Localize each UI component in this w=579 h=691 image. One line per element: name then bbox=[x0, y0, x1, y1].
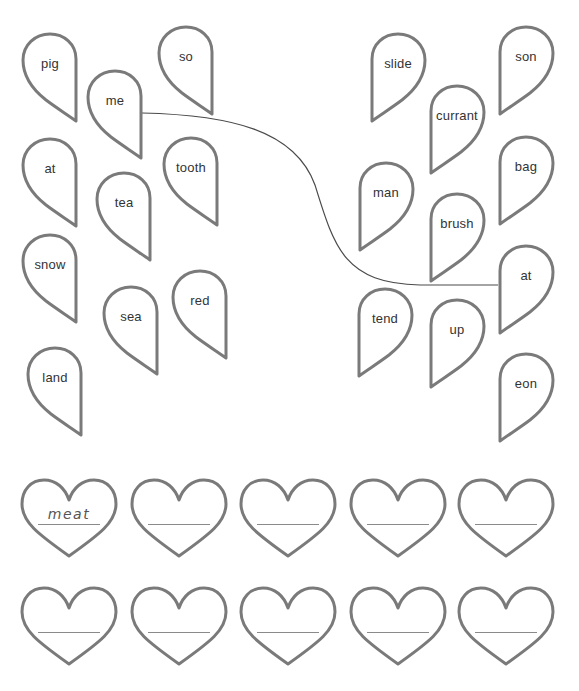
answer-text[interactable] bbox=[365, 614, 431, 632]
answer-text[interactable] bbox=[365, 506, 431, 524]
word-label: slide bbox=[370, 56, 426, 71]
answer-text[interactable] bbox=[255, 614, 321, 632]
word-label: currant bbox=[429, 108, 485, 123]
right-half-heart[interactable]: slide bbox=[370, 33, 426, 121]
word-label: pig bbox=[22, 56, 78, 71]
right-half-heart[interactable]: bag bbox=[498, 136, 554, 224]
answer-blank-line bbox=[148, 632, 210, 633]
word-label: up bbox=[429, 322, 485, 337]
word-label: at bbox=[498, 268, 554, 283]
left-half-heart-shape-icon bbox=[163, 137, 219, 225]
left-half-heart[interactable]: red bbox=[172, 270, 228, 358]
right-half-heart-shape-icon bbox=[429, 299, 485, 387]
left-half-heart-shape-icon bbox=[22, 33, 78, 121]
answer-text[interactable] bbox=[473, 506, 539, 524]
word-label: man bbox=[358, 185, 414, 200]
answer-heart[interactable] bbox=[130, 478, 228, 558]
right-half-heart[interactable]: man bbox=[358, 162, 414, 250]
right-half-heart-shape-icon bbox=[498, 353, 554, 441]
answer-heart[interactable] bbox=[349, 478, 447, 558]
word-label: sea bbox=[103, 309, 159, 324]
answer-blank-line bbox=[257, 632, 319, 633]
answer-heart[interactable] bbox=[130, 586, 228, 666]
right-half-heart[interactable]: eon bbox=[498, 353, 554, 441]
right-half-heart[interactable]: up bbox=[429, 299, 485, 387]
answer-blank-line bbox=[148, 524, 210, 525]
right-half-heart-shape-icon bbox=[498, 245, 554, 333]
word-label: snow bbox=[22, 257, 78, 272]
answer-blank-line bbox=[367, 524, 429, 525]
answer-heart[interactable] bbox=[349, 586, 447, 666]
answer-text[interactable]: meat bbox=[36, 506, 102, 524]
left-half-heart[interactable]: tooth bbox=[163, 137, 219, 225]
answer-heart[interactable]: meat bbox=[20, 478, 118, 558]
left-half-heart[interactable]: land bbox=[27, 347, 83, 435]
right-half-heart-shape-icon bbox=[358, 162, 414, 250]
answer-text[interactable] bbox=[36, 614, 102, 632]
right-half-heart-shape-icon bbox=[498, 26, 554, 114]
left-half-heart-shape-icon bbox=[27, 347, 83, 435]
word-label: bag bbox=[498, 159, 554, 174]
answer-text[interactable] bbox=[146, 506, 212, 524]
left-half-heart-shape-icon bbox=[22, 234, 78, 322]
answer-blank-line bbox=[475, 632, 537, 633]
left-half-heart-shape-icon bbox=[96, 172, 152, 260]
answer-text[interactable] bbox=[255, 506, 321, 524]
answer-text[interactable] bbox=[473, 614, 539, 632]
answer-heart[interactable] bbox=[457, 586, 555, 666]
right-half-heart-shape-icon bbox=[370, 33, 426, 121]
answer-blank-line bbox=[475, 524, 537, 525]
word-label: tend bbox=[357, 311, 413, 326]
left-half-heart-shape-icon bbox=[172, 270, 228, 358]
left-half-heart[interactable]: so bbox=[158, 26, 214, 114]
word-label: me bbox=[87, 93, 143, 108]
word-label: tea bbox=[96, 195, 152, 210]
left-half-heart[interactable]: pig bbox=[22, 33, 78, 121]
right-half-heart[interactable]: brush bbox=[429, 193, 485, 281]
answer-text[interactable] bbox=[146, 614, 212, 632]
right-half-heart-shape-icon bbox=[429, 193, 485, 281]
right-half-heart[interactable]: currant bbox=[429, 85, 485, 173]
left-half-heart[interactable]: sea bbox=[103, 286, 159, 374]
answer-heart[interactable] bbox=[20, 586, 118, 666]
answer-heart[interactable] bbox=[239, 478, 337, 558]
left-half-heart-shape-icon bbox=[103, 286, 159, 374]
right-half-heart-shape-icon bbox=[429, 85, 485, 173]
word-label: son bbox=[498, 49, 554, 64]
answer-blank-line bbox=[367, 632, 429, 633]
word-label: tooth bbox=[163, 160, 219, 175]
word-label: eon bbox=[498, 376, 554, 391]
right-half-heart[interactable]: at bbox=[498, 245, 554, 333]
answer-heart[interactable] bbox=[239, 586, 337, 666]
answer-blank-line bbox=[38, 524, 100, 525]
left-half-heart[interactable]: at bbox=[22, 138, 78, 226]
right-half-heart-shape-icon bbox=[498, 136, 554, 224]
word-label: land bbox=[27, 370, 83, 385]
right-half-heart[interactable]: tend bbox=[357, 288, 413, 376]
answer-blank-line bbox=[38, 632, 100, 633]
word-label: brush bbox=[429, 216, 485, 231]
right-half-heart-shape-icon bbox=[357, 288, 413, 376]
answer-blank-line bbox=[257, 524, 319, 525]
left-half-heart[interactable]: snow bbox=[22, 234, 78, 322]
left-half-heart[interactable]: tea bbox=[96, 172, 152, 260]
left-half-heart-shape-icon bbox=[158, 26, 214, 114]
word-label: at bbox=[22, 161, 78, 176]
word-label: so bbox=[158, 49, 214, 64]
worksheet: pig so me at tooth tea snow red bbox=[0, 0, 579, 691]
answer-heart[interactable] bbox=[457, 478, 555, 558]
word-label: red bbox=[172, 293, 228, 308]
right-half-heart[interactable]: son bbox=[498, 26, 554, 114]
left-half-heart[interactable]: me bbox=[87, 70, 143, 158]
left-half-heart-shape-icon bbox=[22, 138, 78, 226]
left-half-heart-shape-icon bbox=[87, 70, 143, 158]
